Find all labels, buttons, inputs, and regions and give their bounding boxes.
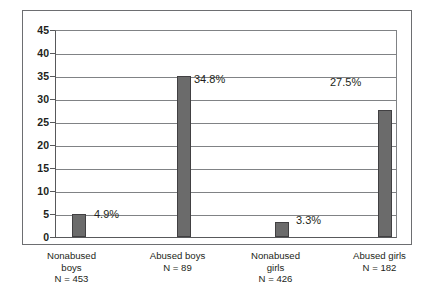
- category-name-line2: girls: [228, 262, 323, 274]
- y-tick-label-10: 10: [23, 186, 49, 197]
- category-label-nonabused-boys: Nonabused boys N = 453: [24, 250, 119, 285]
- bar-nonabused-boys: [72, 214, 86, 237]
- category-name-line2: boys: [24, 262, 119, 274]
- y-tick-label-30: 30: [23, 94, 49, 105]
- y-tick-label-0: 0: [23, 232, 49, 243]
- gridline-15: [56, 169, 396, 170]
- bar-abused-girls: [378, 110, 392, 237]
- y-tick-label-35: 35: [23, 71, 49, 82]
- gridline-10: [56, 192, 396, 193]
- category-n-nonabused-boys: N = 453: [24, 273, 119, 285]
- category-name-line1: Nonabused: [24, 250, 119, 262]
- gridline-30: [56, 100, 396, 101]
- bar-nonabused-girls: [275, 222, 289, 237]
- gridline-40: [56, 54, 396, 55]
- category-name-line1: Nonabused: [228, 250, 323, 262]
- gridline-20: [56, 146, 396, 147]
- plot-area: [55, 30, 397, 238]
- category-label-abused-boys: Abused boys N = 89: [130, 250, 225, 273]
- category-n-abused-girls: N = 182: [332, 262, 427, 274]
- y-tick-label-25: 25: [23, 117, 49, 128]
- y-tick-label-15: 15: [23, 163, 49, 174]
- bar-chart-figure: 45 40 35 30 25 20 15 10 5 0: [0, 0, 432, 293]
- y-tick-label-40: 40: [23, 48, 49, 59]
- bar-abused-boys: [177, 76, 191, 237]
- y-tick-label-20: 20: [23, 140, 49, 151]
- bar-value-label-nonabused-girls: 3.3%: [296, 215, 321, 226]
- y-tick-label-45: 45: [23, 25, 49, 36]
- category-n-abused-boys: N = 89: [130, 262, 225, 274]
- category-label-nonabused-girls: Nonabused girls N = 426: [228, 250, 323, 285]
- bar-value-label-abused-girls: 27.5%: [330, 77, 361, 88]
- y-tick-label-5: 5: [23, 209, 49, 220]
- category-name-line1: Abused boys: [130, 250, 225, 262]
- bar-value-label-abused-boys: 34.8%: [194, 74, 225, 85]
- gridline-25: [56, 123, 396, 124]
- bar-value-label-nonabused-boys: 4.9%: [94, 209, 119, 220]
- category-label-abused-girls: Abused girls N = 182: [332, 250, 427, 273]
- category-name-line1: Abused girls: [332, 250, 427, 262]
- category-n-nonabused-girls: N = 426: [228, 273, 323, 285]
